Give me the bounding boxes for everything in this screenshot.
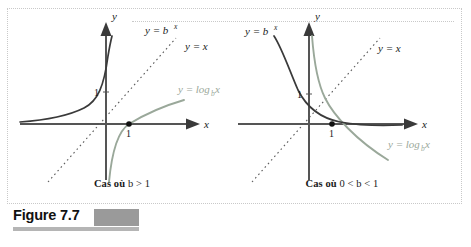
svg-text:x: x [173, 22, 178, 31]
exponential-label-left: y = b x [144, 22, 178, 36]
plot-svg-right: y x 1 1 y = b x y = x y = log b x [228, 0, 456, 196]
tick-label-y-one-right: 1 [297, 89, 302, 100]
x-axis-left [20, 119, 200, 130]
logarithm-label-right: y = log b x [387, 138, 430, 153]
figure-label-bar [13, 227, 139, 231]
identity-label-left: y = x [184, 40, 208, 52]
svg-text:y = b: y = b [144, 24, 169, 36]
panel-caption-right-bold: Cas où [306, 178, 337, 189]
panel-caption-right-rest: 0 < b < 1 [337, 178, 379, 189]
logarithm-curve-right [312, 36, 388, 160]
figure-label-dotted-rule [132, 21, 454, 23]
figure-label-group: Figure 7.7 [7, 207, 307, 237]
plot-svg-left: y x 1 1 y = b x y = x y = log b x [8, 0, 236, 196]
panel-caption-right: Cas où 0 < b < 1 [228, 178, 456, 189]
axis-x-label-right: x [421, 118, 427, 130]
svg-text:y = b: y = b [244, 25, 269, 37]
svg-text:x: x [424, 138, 430, 150]
tick-label-x-one-right: 1 [329, 128, 334, 139]
logarithm-curve-left [109, 100, 184, 182]
panel-caption-left: Cas où b > 1 [8, 178, 236, 189]
figure-label-box [94, 209, 139, 226]
exponential-curve-left [20, 36, 112, 122]
axis-y-label-left: y [111, 10, 117, 22]
point-x-intercept-left [126, 121, 132, 127]
x-axis-right [238, 119, 418, 130]
logarithm-label-left: y = log b x [177, 83, 220, 98]
figure-label: Figure 7.7 [13, 207, 80, 223]
identity-label-right: y = x [377, 42, 401, 54]
axis-x-label-left: x [203, 118, 209, 130]
svg-text:y = log: y = log [387, 138, 420, 150]
svg-text:y = log: y = log [177, 83, 210, 95]
svg-text:x: x [214, 83, 220, 95]
tick-label-x-one-left: 1 [126, 128, 131, 139]
svg-text:x: x [273, 23, 278, 32]
tick-label-y-one-left: 1 [94, 87, 99, 98]
plot-panel-case-b-greater-than-1: y x 1 1 y = b x y = x y = log b x Cas où… [8, 0, 236, 196]
panel-caption-left-rest: b > 1 [125, 178, 150, 189]
exponential-label-right: y = b x [244, 23, 278, 37]
panel-caption-left-bold: Cas où [94, 178, 125, 189]
identity-line-right [252, 38, 380, 182]
point-x-intercept-right [329, 121, 335, 127]
plot-panel-case-0-less-b-less-1: y x 1 1 y = b x y = x y = log b x Cas où… [228, 0, 456, 196]
